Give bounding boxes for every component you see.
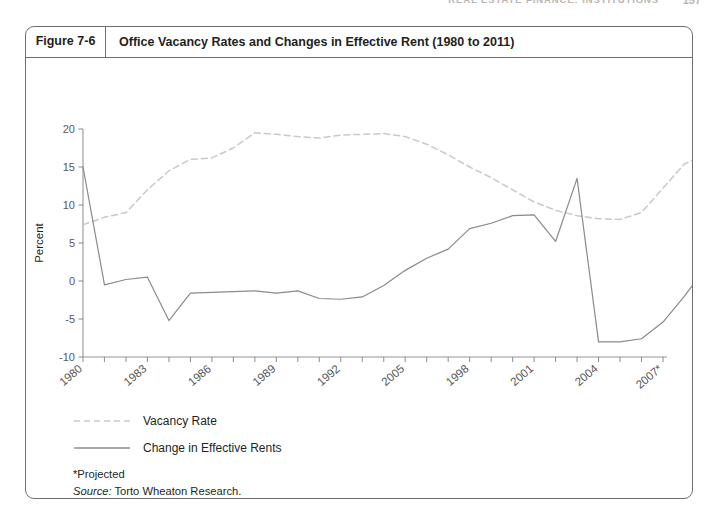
y-axis-tick-label: 10 xyxy=(63,199,75,211)
legend-label: Change in Effective Rents xyxy=(143,441,282,455)
x-axis-tick-label: 1989 xyxy=(250,362,277,388)
note-projected: *Projected xyxy=(73,468,125,480)
figure-number: Figure 7-6 xyxy=(26,27,106,57)
y-axis-tick-label: 5 xyxy=(69,237,75,249)
running-head-text: REAL ESTATE FINANCE: INSTITUTIONS xyxy=(448,0,659,5)
x-axis-tick-label: 2001 xyxy=(508,362,535,388)
chart-series-line xyxy=(83,133,692,225)
chart-series-group xyxy=(83,133,692,342)
y-axis-tick-label: -10 xyxy=(59,351,75,363)
y-axis-tick-label: 15 xyxy=(63,161,75,173)
legend-label: Vacancy Rate xyxy=(143,414,217,428)
figure-box: Figure 7-6 Office Vacancy Rates and Chan… xyxy=(25,26,693,499)
page-number: 157 xyxy=(683,0,701,6)
chart-series-line xyxy=(83,167,692,342)
x-axis-tick-label: 1986 xyxy=(186,362,213,388)
x-axis: 1980198319861989199220051998200120042007… xyxy=(57,357,692,391)
line-chart: -10-505101520Percent 1980198319861989199… xyxy=(26,58,692,498)
figure-header: Figure 7-6 Office Vacancy Rates and Chan… xyxy=(26,27,692,58)
x-axis-tick-label: 1998 xyxy=(444,362,471,388)
x-axis-tick-label: 1992 xyxy=(315,362,342,388)
y-axis: -10-505101520Percent xyxy=(33,123,83,363)
running-head: REAL ESTATE FINANCE: INSTITUTIONS 157 xyxy=(0,0,719,14)
note-source: Source: Torto Wheaton Research. xyxy=(73,485,241,497)
x-axis-tick-label: 1980 xyxy=(57,362,84,388)
y-axis-tick-label: -5 xyxy=(65,313,75,325)
figure-notes: *ProjectedSource: Torto Wheaton Research… xyxy=(73,468,320,498)
x-axis-tick-label: 2005 xyxy=(379,362,406,388)
y-axis-tick-label: 0 xyxy=(69,275,75,287)
x-axis-tick-label: 2007* xyxy=(634,362,665,391)
chart-plot-area: -10-505101520Percent 1980198319861989199… xyxy=(26,58,692,498)
chart-legend: Vacancy RateChange in Effective Rents xyxy=(74,414,282,455)
x-axis-tick-label: 1983 xyxy=(121,362,148,388)
y-axis-tick-label: 20 xyxy=(63,123,75,135)
x-axis-tick-label: 2004 xyxy=(573,362,601,388)
figure-title: Office Vacancy Rates and Changes in Effe… xyxy=(106,35,514,49)
y-axis-title: Percent xyxy=(33,222,45,262)
